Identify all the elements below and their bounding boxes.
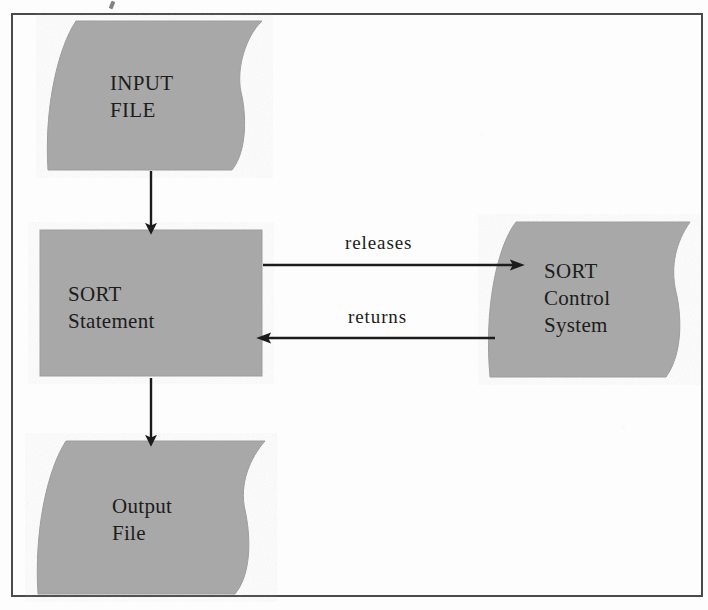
diagram-canvas bbox=[0, 0, 708, 610]
node-sort-statement-shape bbox=[40, 230, 262, 376]
diagram-page: INPUT FILE SORT Statement SORT Control S… bbox=[0, 0, 708, 610]
node-output-file-shape bbox=[37, 441, 265, 594]
node-input-file-shape bbox=[47, 21, 262, 170]
node-sort-control-system-shape bbox=[488, 222, 690, 377]
